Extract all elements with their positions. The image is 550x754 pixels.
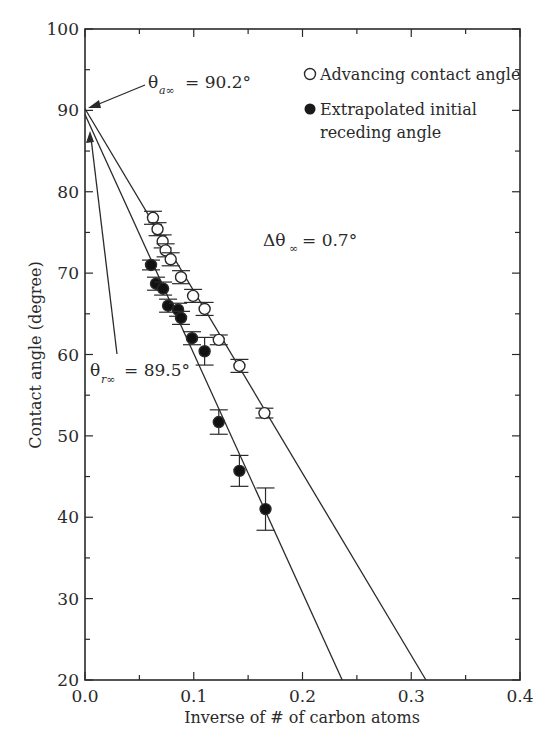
legend: Advancing contact angle Extrapolated ini… bbox=[305, 65, 521, 142]
open-circle-marker-icon bbox=[188, 290, 199, 301]
open-circle-marker-icon bbox=[199, 303, 210, 314]
y-tick-label: 60 bbox=[57, 345, 79, 365]
arrow-advancing bbox=[94, 85, 145, 106]
theta-a-subscript: a∞ bbox=[159, 84, 175, 97]
filled-circle-marker-icon bbox=[158, 283, 169, 294]
y-tick-label: 70 bbox=[57, 263, 79, 283]
y-tick-label: 80 bbox=[57, 182, 79, 202]
filled-circle-marker-icon bbox=[213, 417, 224, 428]
x-tick-label: 0.3 bbox=[398, 686, 425, 706]
data-point-receding bbox=[230, 455, 248, 486]
legend-filled-circle-icon bbox=[305, 104, 316, 115]
theta-a-symbol: θ bbox=[148, 72, 158, 92]
plot-border bbox=[85, 29, 520, 680]
fit-line-receding bbox=[85, 114, 342, 680]
fit-line-advancing bbox=[85, 109, 426, 680]
open-circle-marker-icon bbox=[176, 272, 187, 283]
open-circle-marker-icon bbox=[213, 334, 224, 345]
open-circle-marker-icon bbox=[234, 360, 245, 371]
y-tick-label: 30 bbox=[57, 589, 79, 609]
axis-ticks: 0.00.10.20.30.42030405060708090100 bbox=[47, 19, 534, 706]
delta-theta-value: = 0.7° bbox=[302, 230, 357, 250]
theta-r-symbol: θ bbox=[90, 360, 100, 380]
arrowhead-advancing-icon bbox=[88, 100, 101, 108]
filled-circle-marker-icon bbox=[146, 259, 157, 270]
legend-label-receding-line1: Extrapolated initial bbox=[320, 100, 477, 119]
data-point-advancing bbox=[255, 408, 273, 419]
data-point-advancing bbox=[196, 302, 214, 315]
filled-circle-marker-icon bbox=[187, 333, 198, 344]
delta-theta-symbol: Δθ bbox=[263, 230, 286, 250]
open-circle-marker-icon bbox=[147, 212, 158, 223]
legend-label-advancing: Advancing contact angle bbox=[319, 65, 520, 84]
x-tick-label: 0.4 bbox=[506, 686, 533, 706]
svg-text:θ: θ bbox=[148, 72, 158, 92]
y-tick-label: 50 bbox=[57, 426, 79, 446]
y-tick-label: 20 bbox=[57, 670, 79, 690]
open-circle-marker-icon bbox=[165, 254, 176, 265]
fit-lines bbox=[85, 109, 426, 680]
data-point-receding bbox=[196, 337, 214, 365]
y-tick-label: 90 bbox=[57, 100, 79, 120]
data-point-receding bbox=[183, 332, 201, 345]
data-point-receding bbox=[142, 259, 160, 270]
annotation-delta-theta: Δθ ∞ = 0.7° bbox=[263, 230, 357, 255]
x-tick-label: 0.1 bbox=[180, 686, 207, 706]
filled-circle-marker-icon bbox=[199, 346, 210, 357]
plot-frame bbox=[85, 29, 520, 680]
annotation-advancing-limit: θ a∞ = 90.2° bbox=[88, 72, 251, 108]
open-circle-marker-icon bbox=[152, 224, 163, 235]
theta-r-value: = 89.5° bbox=[124, 360, 190, 380]
legend-label-receding-line2: receding angle bbox=[320, 123, 441, 142]
open-circle-marker-icon bbox=[259, 408, 270, 419]
y-tick-label: 40 bbox=[57, 507, 79, 527]
legend-open-circle-icon bbox=[305, 69, 316, 80]
contact-angle-chart: 0.00.10.20.30.42030405060708090100 Inver… bbox=[0, 0, 550, 754]
data-point-advancing bbox=[172, 271, 190, 284]
y-tick-label: 100 bbox=[47, 19, 79, 39]
arrow-receding bbox=[91, 138, 117, 354]
delta-theta-subscript: ∞ bbox=[289, 242, 298, 255]
filled-circle-marker-icon bbox=[260, 504, 271, 515]
theta-a-value: = 90.2° bbox=[185, 72, 251, 92]
data-point-advancing bbox=[230, 359, 248, 372]
filled-circle-marker-icon bbox=[234, 465, 245, 476]
x-tick-label: 0.2 bbox=[289, 686, 316, 706]
theta-r-subscript: r∞ bbox=[101, 373, 115, 386]
x-axis-title: Inverse of # of carbon atoms bbox=[184, 708, 420, 727]
filled-circle-marker-icon bbox=[176, 312, 187, 323]
y-axis-title: Contact angle (degree) bbox=[26, 261, 45, 448]
